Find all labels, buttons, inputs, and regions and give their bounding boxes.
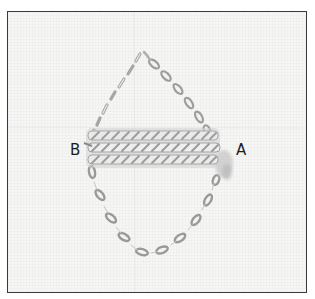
figure-frame: B A [7,11,307,293]
twisted-cord-1 [88,131,218,140]
point-label-b: B [70,143,80,158]
stitch-illustration [8,12,306,292]
upper-outline-stitches [92,52,212,137]
point-label-a: A [236,143,246,158]
twisted-cord-bar [84,128,220,168]
twisted-cord-2 [88,143,220,152]
lower-outline-stitches [88,166,221,257]
twisted-cord-3 [88,155,218,164]
